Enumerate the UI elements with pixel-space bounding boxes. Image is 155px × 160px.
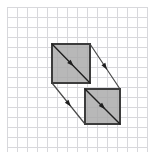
translation-figure [0,0,155,160]
figure-canvas [0,0,155,160]
